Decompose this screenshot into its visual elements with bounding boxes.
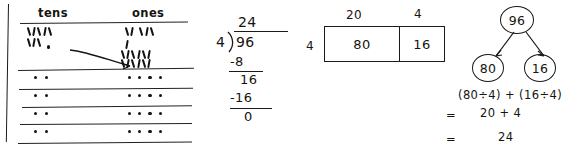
area-model: 20 4 4 80 16 <box>318 6 458 76</box>
column-header-tens: tens <box>38 6 68 20</box>
area-cell-1: 80 <box>324 26 400 62</box>
number-bond-part-2: 16 <box>524 54 556 82</box>
tens-tally-row-2 <box>28 38 58 49</box>
number-bond: 96 80 16 (80÷4) + (16÷4) = 20 + 4 = 24 <box>462 4 582 150</box>
bond-line2-equals: = <box>446 108 456 122</box>
tens-tally-row-1 <box>28 27 54 36</box>
division-step-2: 16 <box>240 72 257 87</box>
dividend: 96 <box>236 34 255 50</box>
group-row-2-tens-dots <box>34 94 56 97</box>
group-row-1-ones-dots <box>128 76 169 79</box>
area-cell-2: 16 <box>399 26 445 62</box>
chart-rule-5 <box>18 141 192 144</box>
bond-line3: 24 <box>498 130 513 144</box>
area-top-label-1: 20 <box>346 8 362 22</box>
group-row-1-tens-dots <box>34 76 56 79</box>
chart-column-divider <box>6 4 9 142</box>
long-division-work: 24 4 96 -8 16 -16 0 <box>212 14 304 130</box>
divisor: 4 <box>216 34 225 50</box>
chart-rule-2 <box>19 88 193 90</box>
bond-line2: 20 + 4 <box>480 106 521 120</box>
ones-tally-row-1 <box>126 27 156 36</box>
number-bond-part-1: 80 <box>472 54 504 82</box>
chart-rule-3 <box>22 105 192 108</box>
group-row-3-tens-dots <box>34 112 56 115</box>
group-row-4-tens-dots <box>34 130 56 133</box>
bond-line3-equals: = <box>446 132 456 146</box>
group-row-2-ones-dots <box>128 94 169 97</box>
quotient-bar <box>234 31 288 32</box>
group-row-4-ones-dots <box>128 130 169 133</box>
division-remainder: 0 <box>244 109 253 124</box>
quotient: 24 <box>238 14 257 30</box>
bond-expression: (80÷4) + (16÷4) <box>458 88 562 102</box>
column-header-ones: ones <box>132 6 164 20</box>
place-value-chart: tens ones <box>8 4 198 152</box>
group-row-3-ones-dots <box>128 112 169 115</box>
chart-rule-4 <box>20 123 192 125</box>
area-top-label-2: 4 <box>414 7 422 21</box>
division-step-1: -8 <box>230 54 244 69</box>
division-step-3: -16 <box>230 90 252 105</box>
chart-header-rule <box>20 22 188 24</box>
area-side-label: 4 <box>306 39 314 53</box>
